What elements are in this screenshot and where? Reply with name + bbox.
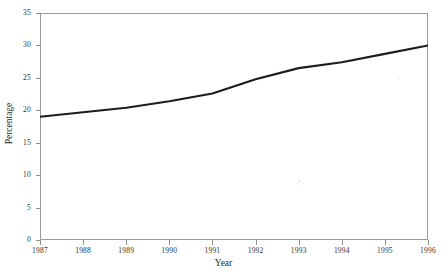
x-axis-tick	[256, 240, 257, 245]
y-axis-tick-label: 35	[5, 9, 31, 17]
x-axis-tick	[385, 240, 386, 245]
y-axis-tick-label: 25	[5, 74, 31, 82]
x-axis-tick	[169, 240, 170, 245]
scan-artifact	[303, 183, 304, 185]
y-axis-tick	[36, 78, 41, 79]
y-axis-tick-label: 10	[5, 171, 31, 179]
y-axis-tick	[36, 208, 41, 209]
scan-artifact	[299, 180, 300, 183]
y-axis-tick-label: 5	[5, 204, 31, 212]
y-axis-tick-label: 30	[5, 41, 31, 49]
x-axis-tick	[212, 240, 213, 245]
x-axis-tick-label: 1993	[279, 246, 319, 255]
x-axis-tick-label: 1989	[106, 246, 146, 255]
x-axis-tick-label: 1987	[20, 246, 60, 255]
x-axis-tick-label: 1995	[365, 246, 405, 255]
x-axis-title: Year	[0, 258, 447, 269]
x-axis-tick-label: 1990	[149, 246, 189, 255]
y-axis-tick	[36, 175, 41, 176]
data-line-layer	[40, 13, 428, 240]
y-axis-tick	[36, 13, 41, 14]
y-axis-tick	[36, 45, 41, 46]
y-axis-tick-label: 0	[5, 236, 31, 244]
scan-artifact	[398, 78, 399, 80]
y-axis-tick	[36, 110, 41, 111]
x-axis-tick	[299, 240, 300, 245]
y-axis-title: Percentage	[4, 84, 15, 164]
x-axis-tick-label: 1994	[322, 246, 362, 255]
x-axis-tick	[342, 240, 343, 245]
x-axis-tick-label: 1991	[192, 246, 232, 255]
x-axis-tick-label: 1996	[408, 246, 447, 255]
x-axis-tick	[126, 240, 127, 245]
line-chart: 05101520253035 1987198819891990199119921…	[0, 0, 447, 277]
x-axis-tick-label: 1992	[236, 246, 276, 255]
x-axis-tick-label: 1988	[63, 246, 103, 255]
x-axis-tick	[428, 240, 429, 245]
y-axis-tick	[36, 143, 41, 144]
series-line-percentage	[40, 45, 428, 116]
x-axis-tick	[40, 240, 41, 245]
x-axis-tick	[83, 240, 84, 245]
